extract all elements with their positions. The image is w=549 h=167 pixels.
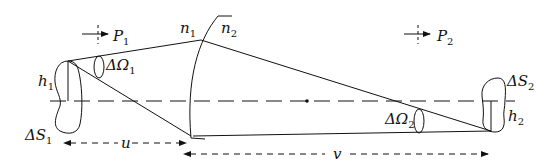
label-P1: P1 [112, 27, 129, 47]
label-dOmega2: ΔΩ2 [384, 110, 415, 130]
label-u: u [121, 134, 131, 152]
ray-upper-refracted [201, 40, 491, 131]
image-area-dS2 [482, 78, 506, 132]
label-h1: h1 [38, 72, 54, 92]
label-dS1: ΔS1 [24, 126, 52, 146]
label-dOmega1: ΔΩ1 [105, 56, 136, 76]
solid-angle-2-cone [414, 109, 424, 133]
optics-diagram: P1 P2 n1 n2 h1 h2 ΔΩ1 ΔΩ2 ΔS1 ΔS2 u v [0, 0, 549, 167]
label-h2: h2 [508, 107, 524, 127]
surface-bottom-tick [191, 138, 205, 139]
label-P2: P2 [436, 27, 453, 47]
ray-upper-incident [68, 40, 201, 61]
label-dS2: ΔS2 [506, 72, 534, 92]
solid-angle-1-cone [94, 56, 104, 78]
ray-lower-refracted [193, 131, 491, 136]
label-n2: n2 [221, 19, 237, 39]
center-of-curvature [305, 99, 309, 103]
label-n1: n1 [180, 19, 196, 39]
label-v: v [333, 145, 342, 163]
